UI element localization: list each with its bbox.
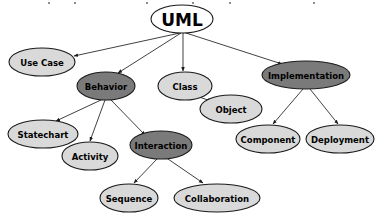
node-uml[interactable]: UML [151, 5, 213, 33]
edge-uml-to-implementation [186, 33, 282, 64]
node-implementation[interactable]: Implementation [262, 61, 350, 89]
node-collaboration[interactable]: Collaboration [174, 184, 260, 212]
node-label-statechart: Statechart [18, 130, 69, 140]
node-deployment[interactable]: Deployment [306, 125, 374, 153]
node-sequence[interactable]: Sequence [100, 184, 158, 212]
caption-remnant-mark [192, 2, 194, 4]
node-use_case[interactable]: Use Case [9, 48, 75, 76]
node-component[interactable]: Component [236, 125, 300, 153]
node-label-implementation: Implementation [268, 71, 344, 81]
node-label-deployment: Deployment [311, 135, 369, 145]
edge-uml-to-use_case [74, 33, 180, 56]
node-label-activity: Activity [72, 152, 109, 162]
uml-taxonomy-diagram: UMLUse CaseBehaviorClassObjectImplementa… [0, 0, 380, 221]
node-behavior[interactable]: Behavior [77, 72, 135, 100]
node-interaction[interactable]: Interaction [130, 131, 192, 159]
diagram-canvas: UMLUse CaseBehaviorClassObjectImplementa… [0, 0, 380, 221]
caption-remnant-mark [48, 2, 50, 4]
edge-interaction-to-sequence [134, 159, 157, 183]
caption-remnant-mark [313, 2, 315, 4]
caption-remnant-mark [74, 2, 76, 4]
node-object[interactable]: Object [200, 95, 262, 123]
edge-implementation-to-component [273, 89, 303, 124]
edge-behavior-to-statechart [56, 100, 101, 121]
edge-behavior-to-activity [90, 100, 105, 141]
node-label-interaction: Interaction [135, 141, 188, 151]
node-label-component: Component [241, 135, 296, 145]
node-activity[interactable]: Activity [62, 142, 118, 170]
node-label-behavior: Behavior [85, 82, 128, 92]
edge-implementation-to-deployment [310, 89, 338, 124]
node-label-class: Class [172, 82, 197, 92]
node-statechart[interactable]: Statechart [8, 120, 78, 148]
nodes-group: UMLUse CaseBehaviorClassObjectImplementa… [8, 5, 374, 212]
node-label-sequence: Sequence [106, 194, 153, 204]
node-label-use_case: Use Case [20, 58, 64, 68]
node-label-uml: UML [161, 10, 203, 30]
edge-uml-to-behavior [118, 33, 181, 73]
edge-interaction-to-collaboration [168, 159, 203, 183]
edge-behavior-to-interaction [111, 100, 145, 135]
top-text-remnants [48, 2, 315, 4]
node-label-collaboration: Collaboration [185, 194, 249, 204]
caption-remnant-mark [229, 2, 231, 4]
caption-remnant-mark [146, 2, 148, 4]
node-label-object: Object [215, 105, 246, 115]
node-class[interactable]: Class [158, 72, 212, 100]
